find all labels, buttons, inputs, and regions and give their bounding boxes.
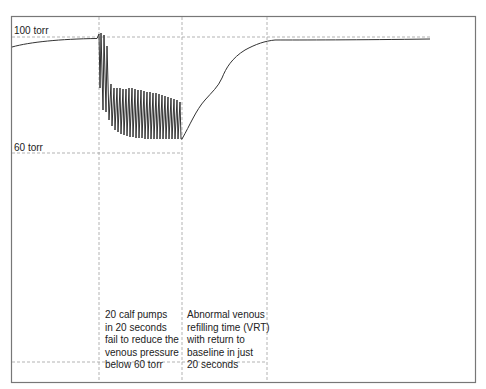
annotation-pump-phase: 20 calf pumps in 20 seconds fail to redu…: [105, 309, 179, 372]
y-label-60-torr: 60 torr: [14, 142, 43, 154]
pressure-trace: [12, 33, 430, 139]
annotation-refill-phase: Abnormal venous refilling time (VRT) wit…: [187, 309, 270, 372]
y-label-100-torr: 100 torr: [14, 25, 48, 37]
